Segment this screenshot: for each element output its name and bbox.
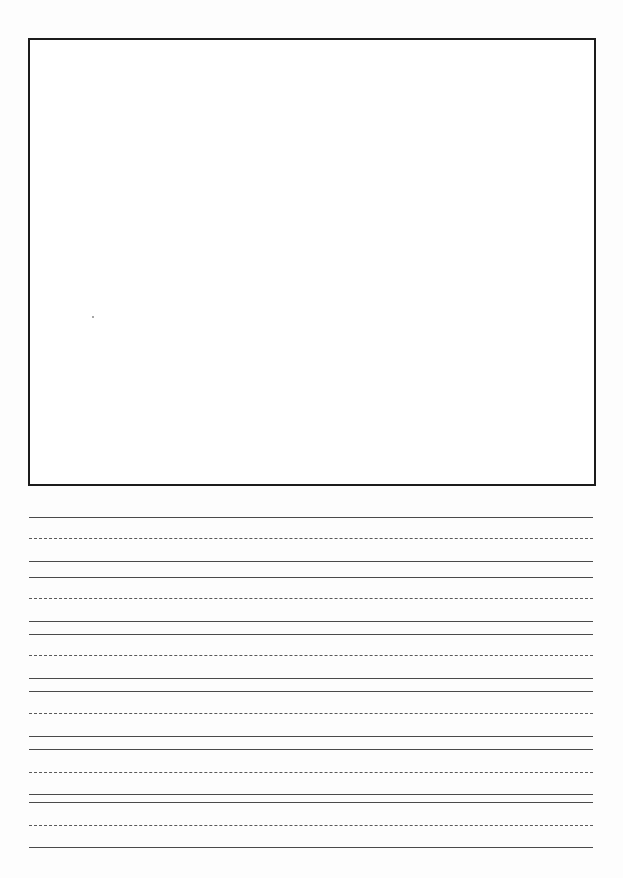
top-line [29, 749, 593, 750]
mid-line [29, 772, 593, 773]
mid-line [29, 713, 593, 714]
base-line [29, 847, 593, 848]
stray-mark [92, 316, 94, 318]
worksheet-page [0, 0, 623, 878]
mid-line [29, 825, 593, 826]
base-line [29, 621, 593, 622]
top-line [29, 517, 593, 518]
top-line [29, 691, 593, 692]
base-line [29, 736, 593, 737]
mid-line [29, 655, 593, 656]
base-line [29, 794, 593, 795]
mid-line [29, 598, 593, 599]
top-line [29, 802, 593, 803]
drawing-area-box [28, 38, 596, 486]
top-line [29, 577, 593, 578]
base-line [29, 561, 593, 562]
top-line [29, 634, 593, 635]
mid-line [29, 538, 593, 539]
base-line [29, 678, 593, 679]
